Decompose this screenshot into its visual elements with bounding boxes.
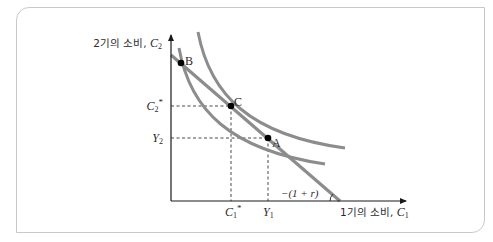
x-tick-c1-star-sup: * xyxy=(237,203,242,213)
indifference-curve-high xyxy=(198,32,345,148)
point-a-label: A xyxy=(272,136,281,150)
budget-line xyxy=(171,55,340,201)
point-b-marker xyxy=(178,60,185,67)
x-axis-label-text: 1기의 소비, xyxy=(340,206,397,218)
y-tick-c2-star-sup: * xyxy=(159,97,164,107)
x-tick-y1: Y1 xyxy=(263,205,274,220)
slope-label: −(1 + r) xyxy=(281,187,319,200)
y-axis-label: 2기의 소비, C2 xyxy=(93,36,162,51)
point-b-label: B xyxy=(185,54,193,68)
point-a-marker xyxy=(265,135,272,142)
slope-angle-arc xyxy=(330,194,333,201)
x-tick-y1-sub: 1 xyxy=(270,211,274,220)
x-axis-label: 1기의 소비, C1 xyxy=(340,205,409,220)
diagram-canvas: B C A 2기의 소비, C2 1기의 소비, C1 C2* Y2 C1* Y… xyxy=(0,0,493,242)
y-axis-label-text: 2기의 소비, xyxy=(93,37,150,49)
y-tick-y2: Y2 xyxy=(152,131,163,146)
x-axis-label-sub: 1 xyxy=(405,211,409,220)
y-axis-label-sub: 2 xyxy=(158,42,162,51)
x-tick-c1-star: C1* xyxy=(225,203,242,220)
point-c-label: C xyxy=(234,95,242,109)
y-tick-y2-sub: 2 xyxy=(159,137,163,146)
y-tick-c2-star: C2* xyxy=(146,97,163,114)
